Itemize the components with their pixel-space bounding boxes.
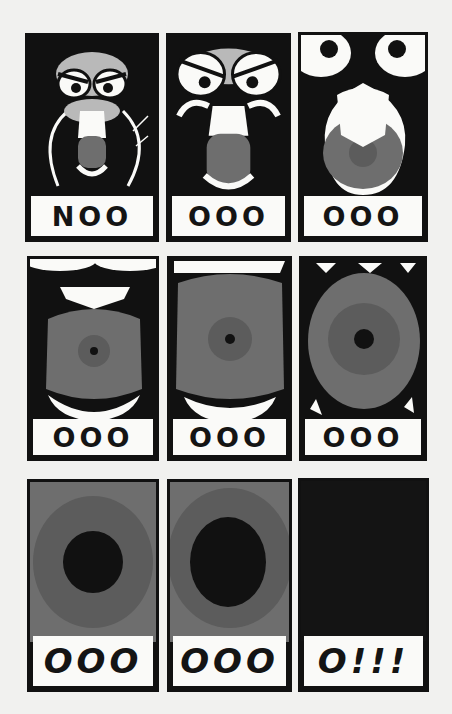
caption-box-4: OOO (33, 419, 153, 455)
all-black-throat (301, 481, 426, 641)
caption-box-8: OOO (173, 636, 286, 686)
caption-box-5: OOO (173, 419, 286, 455)
owl-face-close (301, 35, 425, 197)
comic-panel-5: OOO (167, 256, 292, 461)
comic-panel-8: OOO (167, 479, 292, 692)
mouth-open-large-throat (302, 259, 424, 423)
comic-panel-1: NOO (25, 33, 159, 242)
comic-panel-7: OOO (27, 479, 159, 692)
caption-text: OOO (44, 641, 143, 681)
caption-text: OOO (189, 422, 270, 453)
comic-panel-3: OOO (298, 32, 428, 242)
comic-panel-9: O!!! (298, 478, 429, 692)
caption-box-6: OOO (305, 419, 421, 455)
caption-text: OOO (323, 201, 404, 232)
caption-box-3: OOO (304, 196, 422, 236)
mouth-open-small-throat (30, 259, 156, 421)
caption-text: OOO (188, 201, 269, 232)
caption-box-2: OOO (172, 196, 285, 236)
caption-box-9: O!!! (304, 636, 423, 686)
caption-text: OOO (323, 422, 404, 453)
caption-box-1: NOO (31, 196, 153, 236)
comic-panel-6: OOO (299, 256, 427, 461)
owl-face-closer (169, 36, 288, 196)
caption-text: OOO (53, 422, 134, 453)
caption-text: OOO (180, 641, 279, 681)
throat-closer (170, 482, 289, 642)
throat-closeup (30, 482, 156, 642)
caption-text: NOO (52, 201, 133, 232)
comic-panel-2: OOO (166, 33, 291, 242)
comic-panel-4: OOO (27, 256, 159, 461)
caption-box-7: OOO (33, 636, 153, 686)
owl-face-far (28, 36, 156, 196)
mouth-open-medium-throat (170, 259, 289, 423)
caption-text: O!!! (318, 641, 409, 681)
